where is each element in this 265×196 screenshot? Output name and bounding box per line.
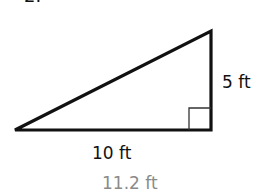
right-angle-marker-icon [189,108,211,130]
hypotenuse-answer-label: 11.2 ft [102,174,158,192]
vertical-leg-label: 5 ft [222,73,251,91]
horizontal-leg-label: 10 ft [92,144,131,162]
triangle-shape [15,31,211,130]
right-triangle-figure [0,0,265,196]
